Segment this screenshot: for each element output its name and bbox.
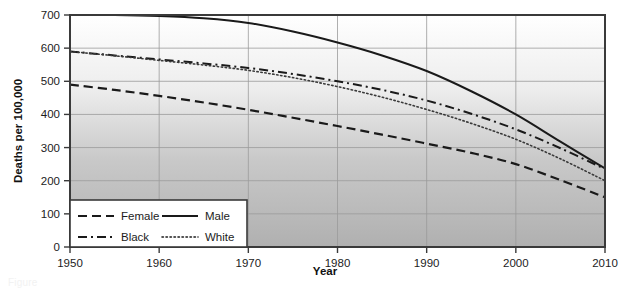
x-tick-label: 2010 [592,257,618,269]
x-tick-label: 1990 [414,257,440,269]
y-axis-ticks: 0100200300400500600700 [41,9,70,253]
legend-label-black: Black [121,231,149,243]
legend-label-male: Male [205,210,230,222]
figure-container: 0100200300400500600700 19501960197019801… [0,0,625,289]
y-tick-label: 200 [41,175,60,187]
y-tick-label: 500 [41,75,60,87]
y-tick-label: 100 [41,208,60,220]
x-tick-label: 1970 [236,257,262,269]
x-tick-label: 1950 [57,257,83,269]
y-tick-label: 700 [41,9,60,21]
y-axis-title: Deaths per 100,000 [12,79,24,183]
line-chart: 0100200300400500600700 19501960197019801… [0,0,625,289]
legend-label-female: Female [121,210,159,222]
legend-label-white: White [205,231,234,243]
x-tick-label: 2000 [503,257,529,269]
x-axis-ticks: 1950196019701980199020002010 [57,247,618,269]
x-axis-title: Year [313,265,338,277]
figure-caption-fragment: Figure [8,277,38,288]
y-tick-label: 400 [41,108,60,120]
y-tick-label: 0 [54,241,60,253]
legend: FemaleMaleBlackWhite [70,200,247,247]
x-tick-label: 1960 [146,257,172,269]
y-tick-label: 600 [41,42,60,54]
y-tick-label: 300 [41,142,60,154]
